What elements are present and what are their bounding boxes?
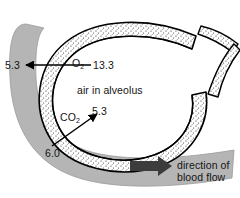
alveolus-wall (39, 22, 240, 171)
carbon-dioxide-label: CO2 (60, 111, 80, 123)
blood-flow-label-line1: direction of (177, 159, 230, 171)
oxygen-blood-value: 5.3 (5, 59, 20, 71)
alveolus-space-label: air in alveolus (77, 84, 143, 96)
alveolus-gas-exchange-diagram: O2 13.3 5.3 CO2 5.3 6.0 air in alveolus … (0, 0, 240, 198)
carbon-dioxide-alveolar-value: 5.3 (92, 105, 107, 117)
oxygen-alveolar-value: 13.3 (93, 59, 114, 71)
carbon-dioxide-blood-value: 6.0 (45, 147, 60, 159)
oxygen-label: O2 (72, 57, 84, 69)
blood-flow-label-line2: blood flow (177, 171, 230, 183)
blood-flow-label: direction of blood flow (177, 159, 230, 183)
